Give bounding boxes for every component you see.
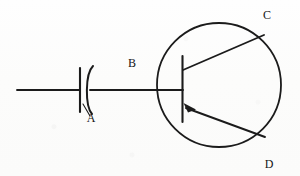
emitter-lead: [186, 108, 265, 137]
label-a: A: [87, 111, 96, 125]
label-c: C: [263, 8, 271, 22]
circuit-diagram-svg: A B C D: [0, 0, 300, 176]
label-d: D: [265, 157, 274, 171]
label-b: B: [128, 56, 136, 70]
collector-lead: [183, 35, 264, 70]
transistor-envelope-circle: [157, 23, 281, 147]
circuit-diagram-canvas: A B C D: [0, 0, 300, 176]
